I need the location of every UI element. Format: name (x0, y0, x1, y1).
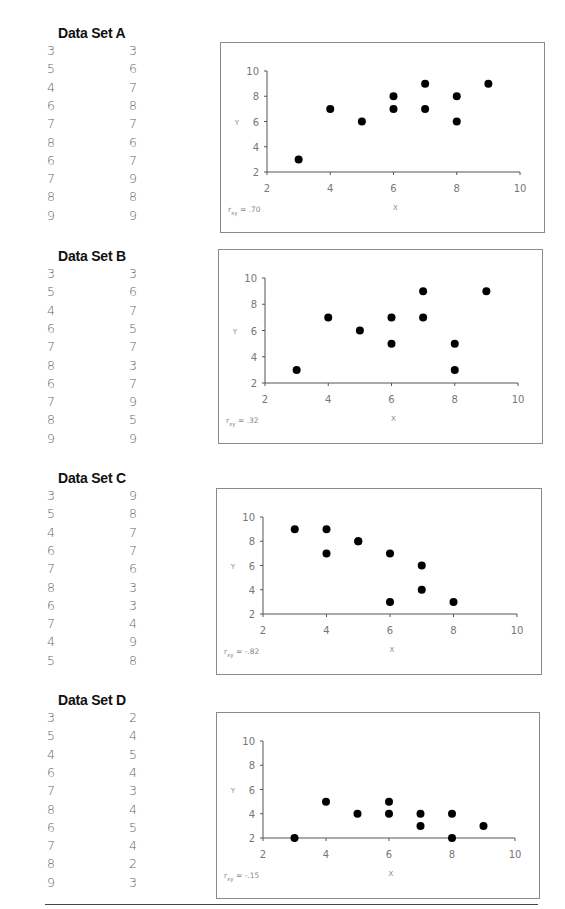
table-row: 63 (0, 598, 200, 616)
data-point (324, 313, 332, 321)
table-row: 74 (0, 838, 200, 856)
chart-d: 246810246810YXrxy = -.15 (216, 712, 540, 899)
table-row: 77 (0, 339, 200, 357)
y-value: 6 (129, 61, 137, 76)
x-value: 3 (47, 710, 55, 725)
x-tick-label: 10 (509, 849, 522, 860)
table-row: 77 (0, 116, 200, 134)
y-value: 3 (129, 598, 137, 613)
x-value: 4 (47, 634, 55, 649)
data-point (323, 525, 331, 533)
y-tick-label: 2 (253, 167, 259, 178)
x-value: 4 (47, 303, 55, 318)
data-point (418, 562, 426, 570)
table-row: 84 (0, 802, 200, 820)
x-value: 9 (47, 208, 55, 223)
data-point (417, 810, 425, 818)
x-tick-label: 6 (386, 849, 392, 860)
y-value: 9 (129, 431, 137, 446)
y-tick-label: 4 (249, 809, 255, 820)
x-value: 8 (47, 856, 55, 871)
x-value: 5 (47, 506, 55, 521)
data-point (421, 80, 429, 88)
table-row: 82 (0, 856, 200, 874)
x-value: 3 (47, 266, 55, 281)
table-row: 79 (0, 171, 200, 189)
x-value: 9 (47, 431, 55, 446)
x-value: 8 (47, 412, 55, 427)
y-value: 7 (129, 80, 137, 95)
y-value: 9 (129, 208, 137, 223)
data-point (385, 798, 393, 806)
x-value: 7 (47, 339, 55, 354)
x-value: 7 (47, 561, 55, 576)
data-point (482, 287, 490, 295)
x-value: 4 (47, 80, 55, 95)
y-value: 5 (129, 820, 137, 835)
y-value: 6 (129, 561, 137, 576)
x-value: 6 (47, 153, 55, 168)
correlation-label: rxy = .70 (228, 205, 261, 216)
y-tick-label: 6 (249, 561, 255, 572)
x-tick-label: 2 (262, 394, 268, 405)
x-value: 7 (47, 116, 55, 131)
x-tick-label: 10 (511, 625, 524, 636)
y-value: 9 (129, 394, 137, 409)
table-row: 58 (0, 506, 200, 524)
x-value: 8 (47, 580, 55, 595)
chart-b: 246810246810YXrxy = .32 (218, 249, 543, 444)
y-value: 9 (129, 171, 137, 186)
y-tick-label: 10 (244, 273, 257, 284)
y-axis-label: Y (232, 328, 238, 336)
chart-a: 246810246810YXrxy = .70 (220, 42, 545, 233)
table-row: 47 (0, 80, 200, 98)
dataset-d-title: Data Set D (58, 692, 126, 708)
table-row: 56 (0, 61, 200, 79)
y-axis-label: Y (234, 119, 240, 127)
data-point (418, 586, 426, 594)
table-row: 64 (0, 765, 200, 783)
x-value: 8 (47, 358, 55, 373)
correlation-label: rxy = -.82 (224, 647, 259, 658)
y-value: 8 (129, 653, 137, 668)
y-tick-label: 6 (251, 326, 257, 337)
data-point (291, 525, 299, 533)
data-point (358, 118, 366, 126)
table-row: 68 (0, 98, 200, 116)
data-point (386, 598, 394, 606)
dataset-c-title: Data Set C (58, 470, 126, 486)
y-value: 7 (129, 543, 137, 558)
x-value: 6 (47, 543, 55, 558)
data-point (386, 549, 394, 557)
y-tick-label: 2 (249, 609, 255, 620)
data-point (326, 105, 334, 113)
data-point (390, 105, 398, 113)
y-axis-label: Y (230, 563, 236, 571)
y-value: 8 (129, 98, 137, 113)
table-row: 54 (0, 728, 200, 746)
y-value: 5 (129, 321, 137, 336)
y-value: 2 (129, 710, 137, 725)
x-value: 9 (47, 875, 55, 890)
y-tick-label: 10 (242, 736, 255, 747)
x-tick-label: 2 (264, 183, 270, 194)
table-row: 49 (0, 634, 200, 652)
y-value: 7 (129, 339, 137, 354)
y-value: 7 (129, 303, 137, 318)
x-tick-label: 10 (514, 183, 527, 194)
x-tick-label: 6 (388, 394, 394, 405)
x-value: 7 (47, 838, 55, 853)
x-value: 4 (47, 525, 55, 540)
y-value: 5 (129, 412, 137, 427)
x-value: 8 (47, 802, 55, 817)
y-tick-label: 8 (249, 536, 255, 547)
x-value: 5 (47, 61, 55, 76)
data-point (291, 834, 299, 842)
x-value: 3 (47, 43, 55, 58)
y-value: 3 (129, 266, 137, 281)
x-value: 5 (47, 728, 55, 743)
table-row: 65 (0, 820, 200, 838)
x-value: 4 (47, 747, 55, 762)
table-row: 39 (0, 488, 200, 506)
x-tick-label: 6 (390, 183, 396, 194)
